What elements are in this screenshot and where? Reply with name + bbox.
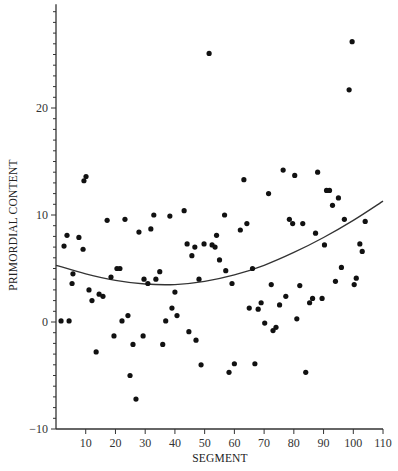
data-point (259, 300, 264, 305)
data-point (117, 266, 122, 271)
data-point (94, 349, 99, 354)
data-point (64, 233, 69, 238)
data-point (307, 300, 312, 305)
data-point (241, 177, 246, 182)
data-point (89, 298, 94, 303)
data-point (198, 362, 203, 367)
data-point (58, 318, 63, 323)
x-axis-title: SEGMENT (192, 452, 248, 464)
data-point (327, 188, 332, 193)
data-point (141, 333, 146, 338)
x-tick-label: 90 (318, 436, 330, 450)
data-point (287, 217, 292, 222)
data-point (303, 370, 308, 375)
data-point (108, 274, 113, 279)
data-point (151, 212, 156, 217)
data-point (148, 226, 153, 231)
data-point (207, 51, 212, 56)
data-point (160, 342, 165, 347)
data-point (141, 277, 146, 282)
y-tick-label: −10 (29, 422, 48, 436)
data-point (354, 276, 359, 281)
data-point (86, 287, 91, 292)
data-point (310, 296, 315, 301)
data-point (212, 245, 217, 250)
data-point (315, 170, 320, 175)
fitted-curve-line (56, 201, 383, 285)
data-point (250, 266, 255, 271)
data-point (277, 302, 282, 307)
data-point (300, 221, 305, 226)
data-point (145, 281, 150, 286)
data-point (232, 361, 237, 366)
data-point (313, 231, 318, 236)
data-point (247, 305, 252, 310)
data-point (322, 242, 327, 247)
data-point (125, 313, 130, 318)
data-point (336, 195, 341, 200)
data-point (122, 217, 127, 222)
data-point (189, 253, 194, 258)
data-point (174, 313, 179, 318)
data-point (100, 294, 105, 299)
data-point (357, 241, 362, 246)
data-point (297, 283, 302, 288)
x-tick-label: 100 (344, 436, 362, 450)
data-point (105, 218, 110, 223)
data-point (76, 235, 81, 240)
data-point (217, 257, 222, 262)
data-point (130, 342, 135, 347)
data-point (83, 174, 88, 179)
data-point (111, 333, 116, 338)
data-point (319, 296, 324, 301)
data-point (330, 203, 335, 208)
data-point (157, 269, 162, 274)
data-point (360, 249, 365, 254)
data-point (69, 281, 74, 286)
data-point (193, 338, 198, 343)
data-point (283, 294, 288, 299)
data-point (61, 243, 66, 248)
data-point (172, 289, 177, 294)
data-point (352, 282, 357, 287)
data-point (192, 245, 197, 250)
x-tick-label: 80 (288, 436, 300, 450)
data-point (119, 318, 124, 323)
data-point (153, 277, 158, 282)
data-point (290, 221, 295, 226)
data-point (273, 325, 278, 330)
data-point (266, 191, 271, 196)
data-point (167, 213, 172, 218)
data-point (252, 361, 257, 366)
data-point (133, 396, 138, 401)
data-point (347, 87, 352, 92)
x-axis: 102030405060708090100110 (56, 429, 392, 450)
data-point (339, 265, 344, 270)
data-point (294, 316, 299, 321)
y-tick-label: 20 (36, 101, 48, 115)
y-tick-label: 0 (42, 315, 48, 329)
data-point (292, 173, 297, 178)
data-points (58, 39, 367, 402)
x-tick-label: 40 (169, 436, 181, 450)
data-point (196, 277, 201, 282)
data-point (269, 282, 274, 287)
data-point (256, 307, 261, 312)
data-point (80, 247, 85, 252)
x-tick-label: 10 (80, 436, 92, 450)
data-point (185, 241, 190, 246)
data-point (229, 281, 234, 286)
x-tick-label: 60 (228, 436, 240, 450)
x-tick-label: 30 (139, 436, 151, 450)
data-point (226, 370, 231, 375)
data-point (70, 271, 75, 276)
scatter-chart: −1001020 102030405060708090100110 SEGMEN… (0, 0, 398, 471)
data-point (163, 318, 168, 323)
data-point (182, 208, 187, 213)
fitted-curve (56, 201, 383, 285)
x-tick-label: 20 (109, 436, 121, 450)
data-point (333, 279, 338, 284)
data-point (222, 212, 227, 217)
x-tick-label: 70 (258, 436, 270, 450)
data-point (281, 167, 286, 172)
